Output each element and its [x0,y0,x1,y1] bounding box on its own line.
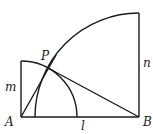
arc-radius-m [21,61,77,117]
label-A: A [4,115,14,129]
label-l: l [81,119,85,133]
label-n: n [143,56,151,70]
label-m: m [5,80,16,94]
segment-PB [48,68,139,117]
label-B: B [142,115,152,129]
label-P: P [40,49,50,63]
geometry-diagram: A B P m n l [0,0,153,134]
